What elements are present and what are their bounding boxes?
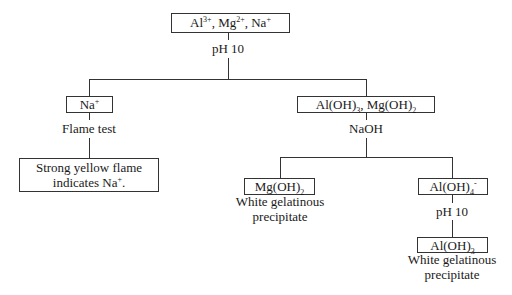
flame-test-label: Flame test	[49, 121, 129, 136]
connector-aloh4-to-ph	[452, 194, 453, 203]
mg-hydroxide-text: Mg(OH)2	[255, 179, 305, 194]
mg-precipitate-desc: White gelatinous precipitate	[225, 194, 335, 224]
connector-flame-to-result	[89, 138, 90, 158]
flame-result-line1: Strong yellow flame	[20, 160, 158, 175]
connector-hydroxides-to-naoh	[366, 112, 367, 120]
root-ions-box: Al3+, Mg2+, Na+	[171, 13, 290, 33]
root-ions-text: Al3+, Mg2+, Na+	[190, 15, 271, 30]
reagent-ph10-first: pH 10	[198, 41, 258, 56]
hydroxides-box: Al(OH)3, Mg(OH)2	[297, 96, 435, 113]
reagent-naoh: NaOH	[336, 121, 396, 136]
connector-ph-down	[228, 58, 229, 79]
aluminate-text: Al(OH)4-	[429, 179, 476, 194]
connector-right-down	[366, 79, 367, 96]
connector-al-down	[452, 157, 453, 178]
connector-left-down	[89, 79, 90, 96]
flame-result-box: Strong yellow flame indicates Na+.	[19, 158, 159, 192]
mg-hydroxide-box: Mg(OH)2	[244, 178, 315, 195]
al-desc-line1: White gelatinous	[397, 252, 507, 267]
connector-root-down	[228, 32, 229, 40]
hydroxides-text: Al(OH)3, Mg(OH)2	[316, 97, 416, 112]
connector-split-1	[89, 79, 367, 80]
mg-desc-line2: precipitate	[225, 209, 335, 224]
connector-naoh-down	[366, 138, 367, 157]
na-ion-box: Na+	[66, 96, 113, 113]
al-desc-line2: precipitate	[397, 267, 507, 282]
aluminate-box: Al(OH)4-	[418, 178, 488, 195]
connector-split-2	[280, 157, 453, 158]
na-ion-text: Na+	[80, 97, 100, 112]
mg-desc-line1: White gelatinous	[225, 194, 335, 209]
al-hydroxide-text: Al(OH)3	[430, 238, 474, 253]
flame-result-line2: indicates Na+.	[20, 175, 158, 190]
connector-na-to-flame	[89, 112, 90, 120]
reagent-ph10-second: pH 10	[422, 204, 482, 219]
connector-ph-to-aloh3	[452, 220, 453, 237]
al-precipitate-desc: White gelatinous precipitate	[397, 252, 507, 282]
connector-mg-down	[280, 157, 281, 178]
al-hydroxide-box: Al(OH)3	[417, 237, 488, 253]
